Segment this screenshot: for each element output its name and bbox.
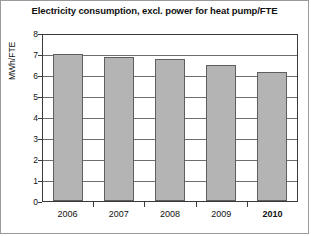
bar	[206, 65, 236, 202]
plot-area	[42, 34, 298, 202]
chart-figure: Electricity consumption, excl. power for…	[0, 0, 309, 234]
bar	[53, 54, 83, 201]
bar	[155, 59, 185, 201]
bar-slot	[145, 35, 196, 201]
bar-slot	[195, 35, 246, 201]
bar-slot	[246, 35, 297, 201]
y-axis-tick-label: 5	[16, 92, 38, 102]
bar-slot	[43, 35, 94, 201]
bar	[257, 72, 287, 201]
y-axis-tick-label: 3	[16, 134, 38, 144]
x-axis-tick-label: 2007	[93, 209, 144, 219]
y-axis-tick-label: 8	[16, 29, 38, 39]
bar	[104, 57, 134, 201]
x-axis-tick-label: 2009	[196, 209, 247, 219]
y-axis-tick-labels: 876543210	[13, 34, 38, 202]
x-axis-tick-mark	[93, 202, 94, 207]
bar-slot	[94, 35, 145, 201]
y-axis-tick-label: 4	[16, 113, 38, 123]
y-axis-tick-label: 1	[16, 176, 38, 186]
x-axis-tick-label: 2008	[144, 209, 195, 219]
x-axis-tick-mark	[247, 202, 248, 207]
x-axis-tick-label: 2010	[247, 209, 298, 219]
x-axis-tick-mark	[196, 202, 197, 207]
x-axis-tick-label: 2006	[42, 209, 93, 219]
x-axis-tick-marks	[42, 202, 298, 207]
x-axis-tick-labels: 20062007200820092010	[42, 209, 298, 219]
bar-series	[43, 35, 297, 201]
y-axis-tick-label: 7	[16, 50, 38, 60]
x-axis-tick-mark	[144, 202, 145, 207]
y-axis-tick-label: 6	[16, 71, 38, 81]
y-axis-tick-label: 0	[16, 197, 38, 207]
chart-title: Electricity consumption, excl. power for…	[1, 5, 308, 16]
y-axis-tick-label: 2	[16, 155, 38, 165]
